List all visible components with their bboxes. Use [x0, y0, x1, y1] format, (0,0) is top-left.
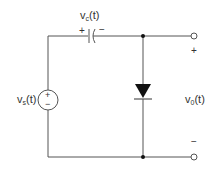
- terminal-bottom-icon: [191, 154, 197, 160]
- capacitor-label-suffix: (t): [89, 9, 99, 21]
- output-plus-sign: +: [191, 46, 197, 56]
- capacitor-minus-sign: −: [99, 25, 105, 35]
- terminal-top-icon: [191, 33, 197, 39]
- source-minus-sign: −: [45, 100, 50, 109]
- output-label-suffix: (t): [194, 93, 204, 105]
- capacitor-label: vc(t): [80, 10, 99, 22]
- source-label-suffix: (t): [26, 93, 36, 105]
- junction-bottom-icon: [141, 155, 145, 159]
- diode-triangle-icon: [135, 84, 151, 98]
- junction-top-icon: [141, 34, 145, 38]
- circuit-diagram: [0, 0, 215, 171]
- output-minus-sign: −: [191, 137, 197, 147]
- source-label: vs(t): [17, 94, 36, 106]
- capacitor-plus-sign: +: [79, 26, 85, 36]
- output-label: v0(t): [185, 94, 205, 106]
